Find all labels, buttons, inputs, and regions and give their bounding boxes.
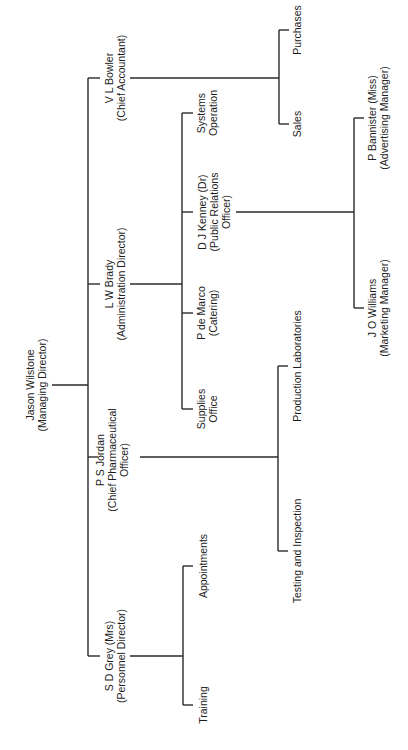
node-name: P S Jordan bbox=[94, 408, 106, 511]
node-title: (Advertising Manager) bbox=[378, 66, 390, 169]
node-supplies-office: Supplies Office bbox=[195, 389, 219, 429]
node-name: S D Grey (Mrs) bbox=[103, 609, 115, 703]
node-testing-inspection: Testing and Inspection bbox=[291, 499, 303, 604]
node-name: J O Williams bbox=[366, 259, 378, 356]
node-title: (Chief Accountant) bbox=[115, 35, 127, 121]
node-name: Purchases bbox=[291, 5, 303, 55]
node-name: P Bannister (Miss) bbox=[366, 66, 378, 169]
node-appointments: Appointments bbox=[197, 534, 209, 598]
node-chief-accountant: V L Bowler (Chief Accountant) bbox=[103, 35, 127, 121]
node-purchases: Purchases bbox=[291, 5, 303, 55]
node-name: Supplies bbox=[195, 389, 207, 429]
node-name: Sales bbox=[291, 111, 303, 137]
node-title: (Managing Director) bbox=[36, 339, 48, 432]
node-name: P de Marco bbox=[195, 286, 207, 340]
node-name: Appointments bbox=[197, 534, 209, 598]
node-marketing-manager: J O Williams (Marketing Manager) bbox=[366, 259, 390, 356]
node-title: (Public Relations bbox=[208, 173, 220, 252]
node-catering: P de Marco (Catering) bbox=[195, 286, 219, 340]
node-name: Production Laboratories bbox=[291, 310, 303, 422]
node-public-relations-officer: D J Kenney (Dr) (Public Relations Office… bbox=[196, 173, 232, 252]
node-title: (Personnel Director) bbox=[115, 609, 127, 703]
node-title: (Chief Pharmaceutical bbox=[106, 408, 118, 511]
node-training: Training bbox=[197, 686, 209, 724]
node-title: Office bbox=[207, 389, 219, 429]
node-systems-operation: Systems Operation bbox=[195, 90, 219, 136]
node-title-cont: Officer) bbox=[220, 173, 232, 252]
node-personnel-director: S D Grey (Mrs) (Personnel Director) bbox=[103, 609, 127, 703]
node-name: V L Bowler bbox=[103, 35, 115, 121]
node-name: Jason Wilstone bbox=[24, 339, 36, 432]
node-name: D J Kenney (Dr) bbox=[196, 173, 208, 252]
node-title: Operation bbox=[207, 90, 219, 136]
node-name: L W Brady bbox=[103, 227, 115, 340]
node-administration-director: L W Brady (Administration Director) bbox=[103, 227, 127, 340]
node-production-laboratories: Production Laboratories bbox=[291, 310, 303, 422]
node-title: (Marketing Manager) bbox=[378, 259, 390, 356]
node-chief-pharmaceutical-officer: P S Jordan (Chief Pharmaceutical Officer… bbox=[94, 408, 130, 511]
node-title: (Administration Director) bbox=[115, 227, 127, 340]
node-name: Training bbox=[197, 686, 209, 724]
node-sales: Sales bbox=[291, 111, 303, 137]
node-name: Systems bbox=[195, 90, 207, 136]
node-managing-director: Jason Wilstone (Managing Director) bbox=[24, 339, 48, 432]
node-title-cont: Officer) bbox=[118, 408, 130, 511]
node-title: (Catering) bbox=[207, 286, 219, 340]
node-advertising-manager: P Bannister (Miss) (Advertising Manager) bbox=[366, 66, 390, 169]
node-name: Testing and Inspection bbox=[291, 499, 303, 604]
